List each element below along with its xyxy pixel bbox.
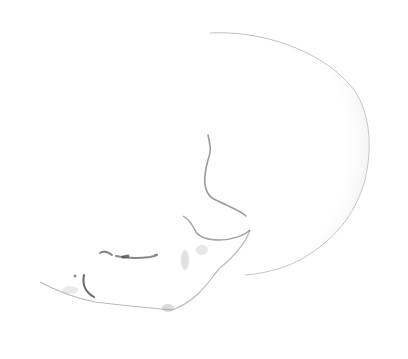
image-canvas bbox=[0, 0, 408, 359]
skull-illustration bbox=[0, 0, 408, 359]
jaw bbox=[40, 216, 250, 312]
